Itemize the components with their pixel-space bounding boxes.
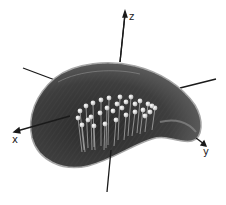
axis-label-x: x <box>12 134 18 145</box>
z-axis-top <box>120 14 125 62</box>
surface-mesh <box>31 63 201 168</box>
3d-surface-figure <box>0 0 226 205</box>
axis-label-z: z <box>129 11 134 22</box>
z-axis-arrowhead <box>123 11 127 17</box>
x-axis-arrowhead <box>14 128 20 133</box>
axis-label-y: y <box>203 146 209 157</box>
